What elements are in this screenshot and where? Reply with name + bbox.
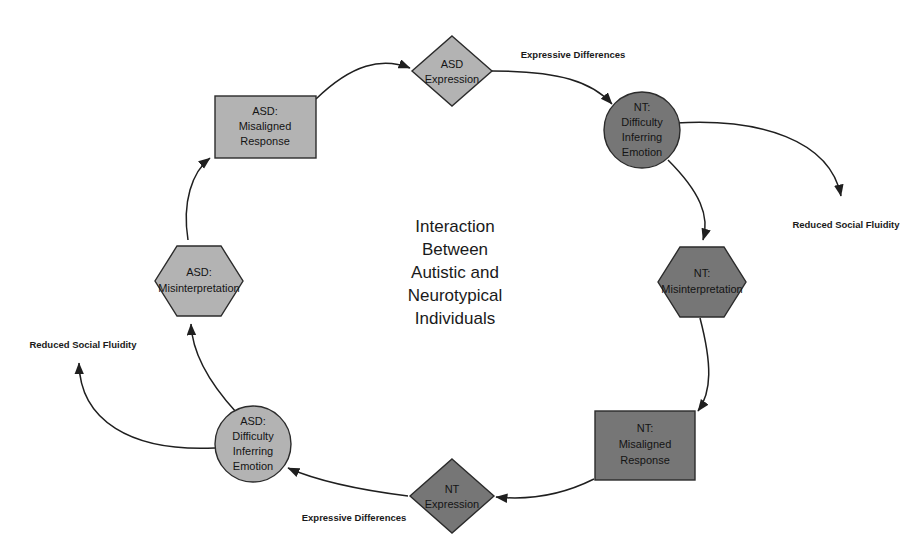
node-nt-misaligned-response[interactable]: NT: Misaligned Response <box>595 411 695 480</box>
center-title-line-1: Interaction <box>415 217 494 236</box>
edge-asd-difficulty-to-reduced-fluidity <box>79 363 215 448</box>
node-nt-misinterpretation[interactable]: NT: Misinterpretation <box>658 247 746 317</box>
center-title-line-5: Individuals <box>415 309 495 328</box>
nt-expression-label-line-2: Expression <box>425 498 479 510</box>
nt-misinterpretation-label-line-2: Misinterpretation <box>661 283 742 295</box>
node-asd-misaligned-response[interactable]: ASD: Misaligned Response <box>215 96 316 158</box>
edge-nt-difficulty-to-nt-misinterpretation <box>668 160 705 240</box>
nt-difficulty-label-line-2: Difficulty <box>621 116 663 128</box>
edge-asd-misinterpretation-to-asd-response <box>186 158 210 240</box>
asd-expression-diamond-shape <box>412 36 492 106</box>
asd-difficulty-label-line-4: Emotion <box>233 460 273 472</box>
edge-nt-misinterpretation-to-nt-response <box>698 318 709 411</box>
asd-expression-label-line-1: ASD <box>441 58 464 70</box>
center-title-line-2: Between <box>422 240 488 259</box>
edge-label-top-expressive-differences: Expressive Differences <box>521 49 626 60</box>
asd-expression-label-line-2: Expression <box>425 73 479 85</box>
node-nt-difficulty-inferring-emotion[interactable]: NT: Difficulty Inferring Emotion <box>604 92 680 168</box>
diagram-canvas: Expressive Differences Reduced Social Fl… <box>0 0 922 547</box>
nt-misaligned-response-label-line-1: NT: <box>637 422 654 434</box>
edge-asd-expression-to-nt-difficulty <box>492 71 612 104</box>
node-asd-difficulty-inferring-emotion[interactable]: ASD: Difficulty Inferring Emotion <box>215 406 291 482</box>
node-nt-expression[interactable]: NT Expression <box>410 459 494 533</box>
asd-difficulty-label-line-3: Inferring <box>233 445 273 457</box>
node-asd-misinterpretation[interactable]: ASD: Misinterpretation <box>155 246 243 316</box>
edge-asd-difficulty-to-asd-misinterpretation <box>191 324 236 412</box>
center-title: Interaction Between Autistic and Neuroty… <box>408 217 503 328</box>
node-asd-expression[interactable]: ASD Expression <box>412 36 492 106</box>
nt-difficulty-label-line-4: Emotion <box>622 146 662 158</box>
nt-misaligned-response-label-line-3: Response <box>620 454 670 466</box>
asd-misaligned-response-label-line-1: ASD: <box>252 105 278 117</box>
asd-misinterpretation-label-line-2: Misinterpretation <box>158 282 239 294</box>
nt-difficulty-label-line-3: Inferring <box>622 131 662 143</box>
asd-misaligned-response-label-line-3: Response <box>240 135 290 147</box>
asd-difficulty-label-line-1: ASD: <box>240 415 266 427</box>
nt-difficulty-label-line-1: NT: <box>634 101 651 113</box>
center-title-line-4: Neurotypical <box>408 286 503 305</box>
edge-nt-difficulty-to-reduced-fluidity <box>676 122 841 196</box>
edge-nt-expression-to-asd-difficulty <box>288 468 408 496</box>
nt-expression-diamond-shape <box>410 459 494 533</box>
center-title-line-3: Autistic and <box>411 263 499 282</box>
edge-nt-response-to-nt-expression <box>496 479 594 498</box>
asd-misinterpretation-label-line-1: ASD: <box>186 266 212 278</box>
edge-label-bottom-expressive-differences: Expressive Differences <box>302 512 407 523</box>
edge-asd-response-to-asd-expression <box>316 63 410 99</box>
edge-label-right-reduced-social-fluidity: Reduced Social Fluidity <box>792 219 900 230</box>
nt-expression-label-line-1: NT <box>445 483 460 495</box>
asd-difficulty-label-line-2: Difficulty <box>232 430 274 442</box>
asd-misaligned-response-label-line-2: Misaligned <box>239 120 292 132</box>
nt-misinterpretation-label-line-1: NT: <box>694 267 711 279</box>
diagram-svg: Expressive Differences Reduced Social Fl… <box>0 0 922 547</box>
edge-label-left-reduced-social-fluidity: Reduced Social Fluidity <box>29 339 137 350</box>
nt-misaligned-response-label-line-2: Misaligned <box>619 438 672 450</box>
